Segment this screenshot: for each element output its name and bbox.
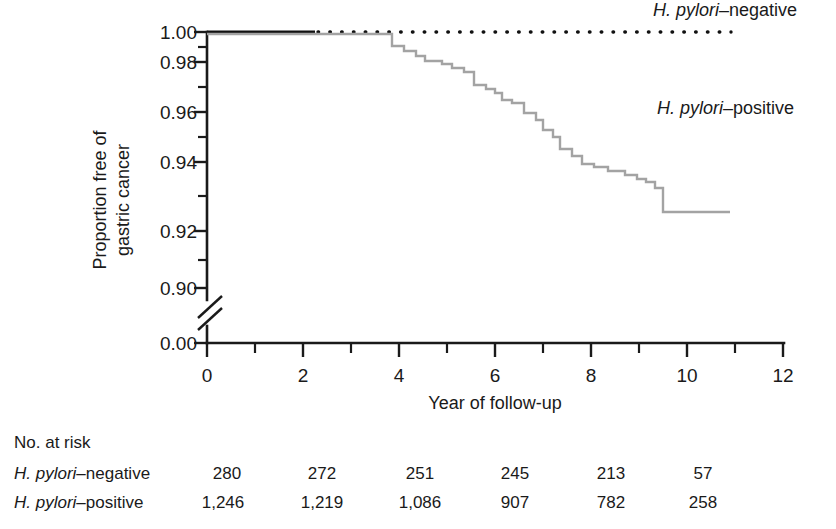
- legend-positive-roman: –positive: [723, 98, 794, 118]
- y-tick-label-0.90: 0.90: [160, 278, 197, 299]
- x-tick-label-0: 0: [202, 365, 213, 386]
- y-tick-label-0.96: 0.96: [160, 102, 197, 123]
- x-tick-label-4: 4: [394, 365, 405, 386]
- kaplan-meier-figure: Proportion free of gastric cancer 1.00 0…: [0, 0, 836, 529]
- risk-cell-negative-y8: 213: [597, 464, 625, 483]
- legend-negative-roman: –negative: [719, 0, 797, 20]
- y-axis-label-line1: Proportion free of: [90, 129, 110, 269]
- y-tick-label-0.00: 0.00: [160, 333, 197, 354]
- x-tick-label-12: 12: [772, 365, 793, 386]
- x-tick-labels: 0 2 4 6 8 10 12: [202, 365, 794, 386]
- y-tick-label-0.98: 0.98: [160, 52, 197, 73]
- x-ticks: [207, 343, 783, 357]
- y-axis-break-icon: [198, 296, 222, 330]
- risk-row-negative-roman: –negative: [76, 464, 150, 483]
- y-tick-label-0.94: 0.94: [160, 152, 197, 173]
- x-tick-label-2: 2: [298, 365, 309, 386]
- risk-cell-positive-y8: 782: [597, 493, 625, 512]
- risk-cell-positive-y4: 1,086: [399, 493, 442, 512]
- risk-cell-positive-y0: 1,246: [202, 493, 245, 512]
- x-tick-label-10: 10: [676, 365, 697, 386]
- x-tick-label-8: 8: [586, 365, 597, 386]
- risk-cell-negative-y2: 272: [308, 464, 336, 483]
- risk-row-negative-italic: H. pylori: [14, 464, 78, 483]
- y-tick-label-1.00: 1.00: [160, 22, 197, 43]
- risk-cell-positive-y10: 258: [689, 493, 717, 512]
- y-tick-labels: 1.00 0.98 0.96 0.94 0.92 0.90 0.00: [160, 22, 197, 354]
- risk-row-label-positive: H. pylori–positive: [14, 493, 143, 512]
- legend-label-negative: H. pylori–negative: [653, 0, 797, 20]
- risk-cell-negative-y0: 280: [213, 464, 241, 483]
- positive-curve-path: [207, 34, 730, 212]
- risk-cell-negative-y4: 251: [406, 464, 434, 483]
- risk-cell-positive-y6: 907: [501, 493, 529, 512]
- y-axis-label-line2: gastric cancer: [113, 144, 133, 256]
- risk-table-header: No. at risk: [14, 433, 91, 452]
- series-h-pylori-positive: [207, 34, 730, 212]
- risk-cell-positive-y2: 1,219: [301, 493, 344, 512]
- survival-curve-svg: Proportion free of gastric cancer 1.00 0…: [0, 0, 836, 529]
- legend-positive-italic: H. pylori: [657, 98, 724, 118]
- risk-row-positive-italic: H. pylori: [14, 493, 78, 512]
- y-tick-label-0.92: 0.92: [160, 221, 197, 242]
- risk-cell-negative-y10: 57: [694, 464, 713, 483]
- risk-row-positive-roman: –positive: [76, 493, 143, 512]
- x-tick-label-6: 6: [490, 365, 501, 386]
- legend-label-positive: H. pylori–positive: [657, 98, 794, 118]
- x-axis-label: Year of follow-up: [428, 393, 561, 413]
- risk-row-label-negative: H. pylori–negative: [14, 464, 150, 483]
- legend-negative-italic: H. pylori: [653, 0, 720, 20]
- axes: [207, 32, 784, 343]
- risk-cell-negative-y6: 245: [501, 464, 529, 483]
- y-axis-label: Proportion free of gastric cancer: [90, 129, 133, 269]
- risk-table: No. at risk H. pylori–negative 280 272 2…: [14, 433, 717, 512]
